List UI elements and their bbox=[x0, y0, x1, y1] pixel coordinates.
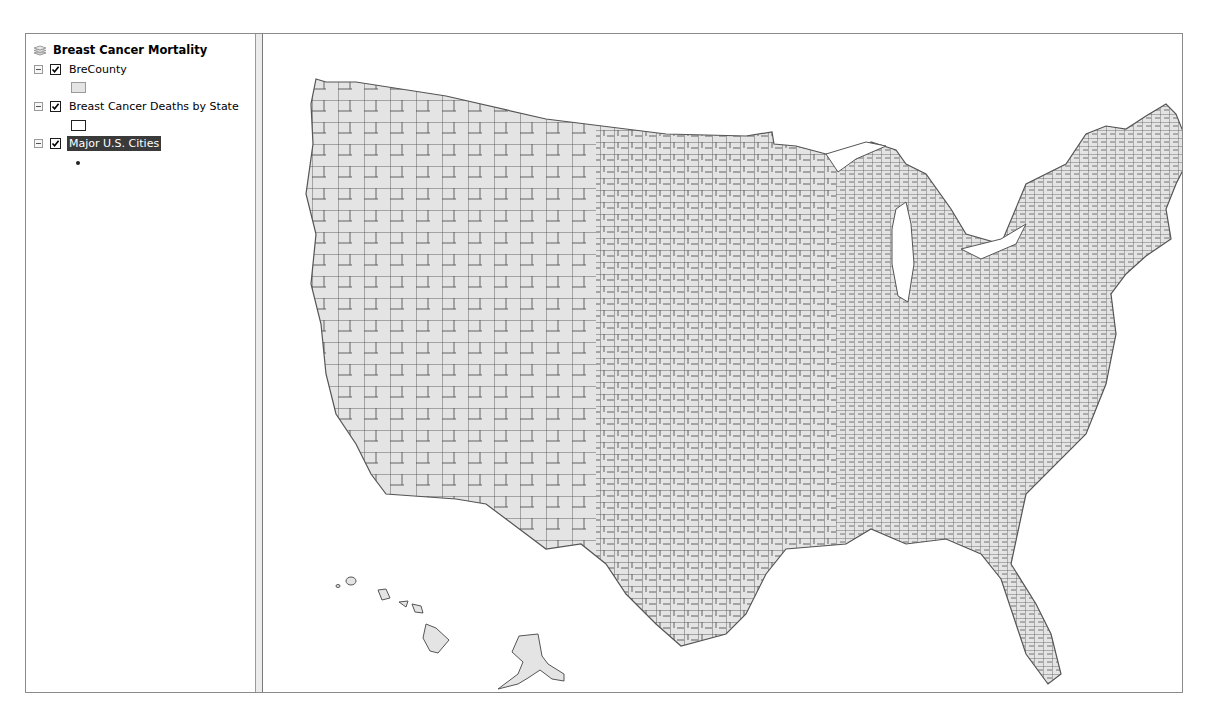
layer-visibility-checkbox[interactable] bbox=[50, 101, 61, 112]
layer-name[interactable]: Breast Cancer Deaths by State bbox=[67, 99, 241, 114]
polygon-fill-symbol-icon[interactable] bbox=[71, 82, 86, 93]
map-display[interactable] bbox=[264, 34, 1182, 692]
toc-layer-state-deaths[interactable]: Breast Cancer Deaths by State bbox=[34, 99, 241, 114]
layer-visibility-checkbox[interactable] bbox=[50, 64, 61, 75]
collapse-icon[interactable] bbox=[34, 65, 43, 74]
toc-layer-brecounty[interactable]: BreCounty bbox=[34, 62, 129, 77]
point-symbol-icon[interactable] bbox=[76, 161, 80, 165]
layer-visibility-checkbox[interactable] bbox=[50, 138, 61, 149]
hawaii-inset bbox=[336, 577, 449, 653]
layer-name[interactable]: BreCounty bbox=[67, 62, 129, 77]
table-of-contents: Breast Cancer Mortality BreCounty Breast… bbox=[26, 34, 254, 692]
polygon-outline-symbol-icon[interactable] bbox=[71, 120, 86, 131]
collapse-icon[interactable] bbox=[34, 102, 43, 111]
toc-root[interactable]: Breast Cancer Mortality bbox=[32, 43, 207, 57]
arcmap-window-frame: Breast Cancer Mortality BreCounty Breast… bbox=[25, 33, 1183, 693]
us-county-map bbox=[264, 34, 1182, 692]
panel-splitter[interactable] bbox=[255, 34, 263, 692]
layers-icon bbox=[32, 43, 48, 57]
data-frame-title: Breast Cancer Mortality bbox=[53, 43, 207, 57]
layer-name-selected[interactable]: Major U.S. Cities bbox=[67, 136, 161, 151]
alaska-inset bbox=[498, 634, 564, 689]
collapse-icon[interactable] bbox=[34, 139, 43, 148]
toc-layer-major-cities[interactable]: Major U.S. Cities bbox=[34, 136, 161, 151]
